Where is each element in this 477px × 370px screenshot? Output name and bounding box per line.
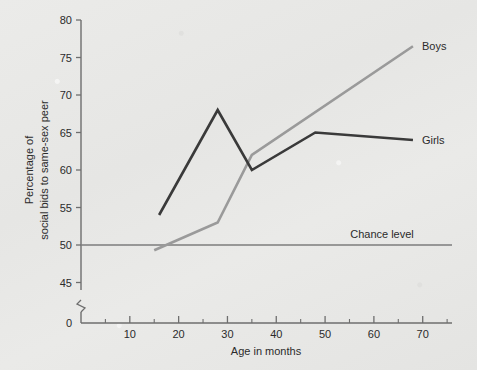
x-tick-label: 40 <box>270 328 282 340</box>
series-line-boys <box>154 46 413 250</box>
x-tick-label: 50 <box>319 328 331 340</box>
x-tick-label: 30 <box>221 328 233 340</box>
series-line-girls <box>159 110 413 215</box>
chance-level-label: Chance level <box>350 228 414 240</box>
y-tick-label: 55 <box>60 202 72 214</box>
y-tick-label: 80 <box>60 14 72 26</box>
x-tick-label: 10 <box>124 328 136 340</box>
series-label-boys: Boys <box>422 40 447 52</box>
y-tick-label: 70 <box>60 89 72 101</box>
y-tick-label: 50 <box>60 239 72 251</box>
series-label-group: BoysGirls <box>422 40 447 146</box>
y-tick-label: 75 <box>60 52 72 64</box>
y-tick-group <box>76 20 81 283</box>
x-tick-group <box>130 316 423 323</box>
y-axis-title-line-2: social bids to same-sex peer <box>38 100 50 240</box>
x-tick-label: 20 <box>173 328 185 340</box>
figure-canvas: 4550556065707580 10203040506070 0 Chance… <box>0 0 477 370</box>
x-axis-title: Age in months <box>231 345 302 357</box>
y-tick-label: 60 <box>60 164 72 176</box>
x-tick-label: 60 <box>368 328 380 340</box>
y-tick-label-group: 4550556065707580 <box>60 14 72 289</box>
y-axis-zero-label: 0 <box>66 317 72 329</box>
y-axis-break-marker <box>77 300 85 312</box>
y-tick-label: 45 <box>60 277 72 289</box>
x-tick-label-group: 10203040506070 <box>124 328 429 340</box>
x-tick-label: 70 <box>417 328 429 340</box>
series-group <box>154 46 413 250</box>
line-chart: 4550556065707580 10203040506070 0 Chance… <box>0 0 477 370</box>
y-axis-title-line-1: Percentage of <box>23 135 35 204</box>
y-tick-label: 65 <box>60 127 72 139</box>
series-label-girls: Girls <box>422 134 445 146</box>
axes-group <box>77 20 452 323</box>
